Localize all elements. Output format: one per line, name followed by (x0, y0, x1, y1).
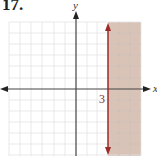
y-axis-arrow-icon (73, 11, 79, 19)
inequality-graph: y x 3 (0, 0, 157, 156)
y-axis-label: y (72, 0, 78, 11)
x-axis-right-arrow-icon (143, 86, 151, 92)
x-axis-left-arrow-icon (0, 86, 8, 92)
tick-label-3: 3 (99, 92, 105, 106)
x-axis-label: x (152, 82, 157, 94)
